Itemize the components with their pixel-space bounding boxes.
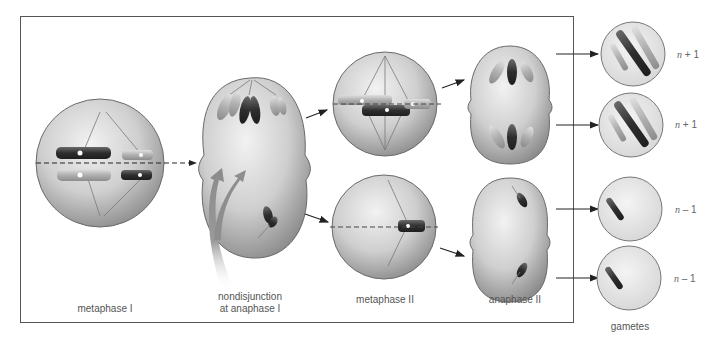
anaphase-1-cell [199, 78, 311, 290]
ploidy-gamete-2: n + 1 [675, 119, 697, 130]
label-metaphase-1: metaphase I [60, 303, 150, 315]
label-anaphase-2: anaphase II [475, 294, 555, 306]
arrow-to-metaphase-2-bottom [305, 214, 328, 222]
ploidy-gamete-3: n – 1 [675, 204, 697, 215]
label-metaphase-2: metaphase II [345, 294, 425, 306]
label-gametes: gametes [600, 321, 660, 333]
chromosome-light-small [122, 150, 153, 160]
gamete-1 [601, 22, 665, 86]
metaphase-2-cell-top [333, 52, 441, 156]
metaphase-1-cell [36, 99, 196, 227]
metaphase-2-cell-bottom [330, 175, 438, 279]
chromosome-dark-small [121, 170, 152, 180]
arrow-to-anaphase-2-bottom [440, 248, 464, 256]
gamete-4 [597, 246, 661, 310]
anaphase-2-cell-bottom [470, 178, 550, 302]
arrow-to-metaphase-2-top [306, 110, 327, 118]
chromosome-light [57, 169, 111, 181]
label-anaphase-1-line2: at anaphase I [205, 303, 295, 315]
ploidy-gamete-4: n – 1 [674, 273, 696, 284]
label-anaphase-1: nondisjunction at anaphase I [205, 291, 295, 315]
arrow-to-anaphase-2-top [442, 80, 464, 88]
ploidy-gamete-1: n + 1 [677, 49, 699, 60]
gamete-2 [599, 93, 663, 157]
label-anaphase-1-line1: nondisjunction [205, 291, 295, 303]
chromosome-dark [56, 147, 111, 159]
anaphase-2-cell-top [468, 46, 552, 164]
gamete-3 [598, 177, 662, 241]
